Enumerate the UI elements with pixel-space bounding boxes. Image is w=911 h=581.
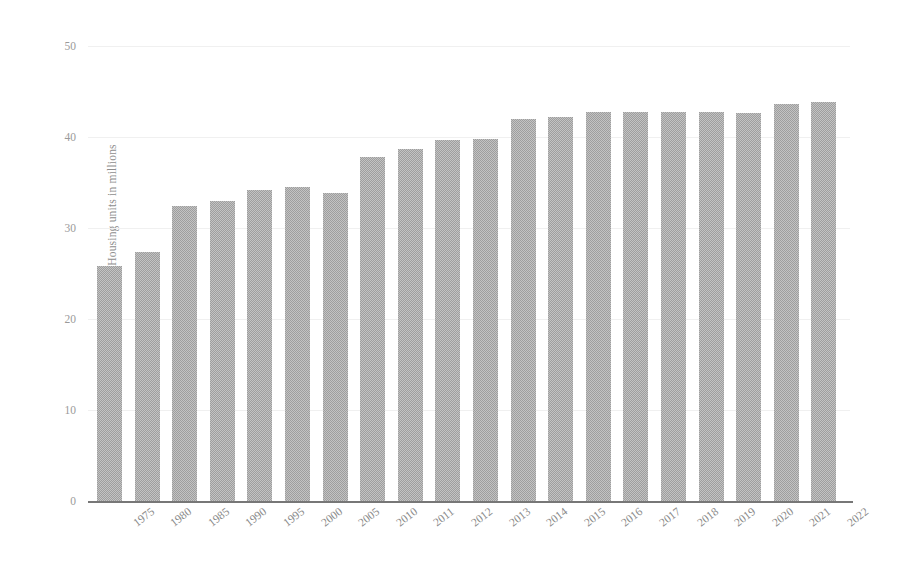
x-axis-tick-label: 2020 [770, 505, 796, 529]
bar [774, 104, 799, 501]
bar [511, 119, 536, 501]
x-axis-tick-label: 1990 [243, 505, 269, 529]
x-axis-ticks: 1975198019851990199520002005201020112012… [88, 505, 850, 575]
bar [135, 252, 160, 501]
x-axis-tick-label: 1995 [281, 505, 307, 529]
x-axis-tick-label: 2022 [845, 505, 871, 529]
bar [586, 112, 611, 501]
y-axis-tick-label: 50 [65, 40, 77, 52]
x-axis-tick-label: 2019 [732, 505, 758, 529]
y-axis-tick-label: 40 [65, 131, 77, 143]
x-axis-tick-label: 1980 [168, 505, 194, 529]
bar [699, 112, 724, 501]
y-axis-tick-label: 0 [70, 495, 76, 507]
bar [435, 140, 460, 501]
y-axis-tick-label: 30 [65, 222, 77, 234]
bar [210, 201, 235, 501]
y-axis-tick-label: 10 [65, 404, 77, 416]
bar [473, 139, 498, 501]
bars-layer [88, 46, 850, 501]
x-axis-tick-label: 2011 [431, 505, 456, 528]
x-axis-tick-label: 2012 [469, 505, 495, 529]
x-axis-tick-label: 2016 [619, 505, 645, 529]
x-axis-tick-label: 2014 [544, 505, 570, 529]
bar [811, 102, 836, 501]
plot-area: 01020304050 [88, 46, 850, 501]
x-axis-line [88, 501, 853, 503]
bar [360, 157, 385, 501]
x-axis-tick-label: 2021 [807, 505, 833, 529]
x-axis-tick-label: 2018 [694, 505, 720, 529]
x-axis-tick-label: 2013 [506, 505, 532, 529]
x-axis-tick-label: 2010 [394, 505, 420, 529]
x-axis-tick-label: 2017 [657, 505, 683, 529]
y-axis-tick-label: 20 [65, 313, 77, 325]
bar-chart: Housing units in millions 01020304050 19… [0, 0, 911, 581]
bar [398, 149, 423, 501]
bar [172, 206, 197, 501]
bar [736, 113, 761, 501]
bar [247, 190, 272, 501]
bar [548, 117, 573, 501]
x-axis-tick-label: 2015 [582, 505, 608, 529]
bar [323, 193, 348, 501]
x-axis-tick-label: 2005 [356, 505, 382, 529]
x-axis-tick-label: 2000 [318, 505, 344, 529]
x-axis-tick-label: 1985 [206, 505, 232, 529]
bar [97, 266, 122, 501]
x-axis-tick-label: 1975 [130, 505, 156, 529]
bar [285, 187, 310, 501]
bar [661, 112, 686, 501]
bar [623, 112, 648, 501]
